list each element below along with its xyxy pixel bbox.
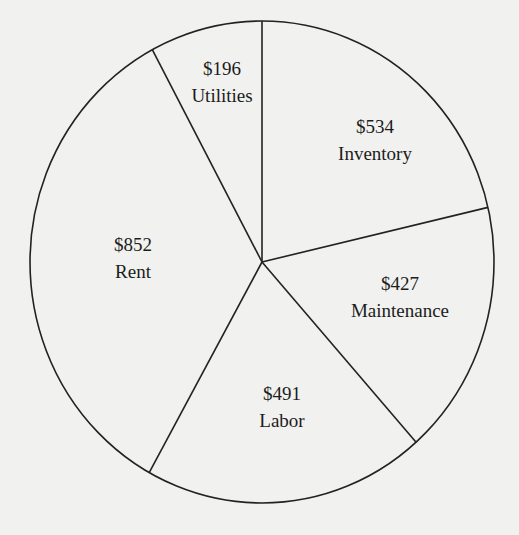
pie-chart (0, 0, 519, 535)
slice-value: $852 (114, 231, 152, 258)
slice-name: Inventory (338, 140, 412, 167)
slice-divider-rent (149, 262, 262, 473)
slice-label-inventory: $534 Inventory (338, 113, 412, 167)
slice-label-labor: $491 Labor (259, 380, 304, 434)
slice-value: $196 (191, 55, 252, 82)
slice-value: $534 (338, 113, 412, 140)
slice-name: Utilities (191, 82, 252, 109)
slice-value: $427 (351, 270, 449, 297)
slice-value: $491 (259, 380, 304, 407)
slice-divider-maintenance (262, 207, 488, 262)
slice-label-maintenance: $427 Maintenance (351, 270, 449, 324)
slice-label-rent: $852 Rent (114, 231, 152, 285)
slice-name: Labor (259, 407, 304, 434)
slice-label-utilities: $196 Utilities (191, 55, 252, 109)
slice-name: Rent (114, 258, 152, 285)
slice-name: Maintenance (351, 297, 449, 324)
